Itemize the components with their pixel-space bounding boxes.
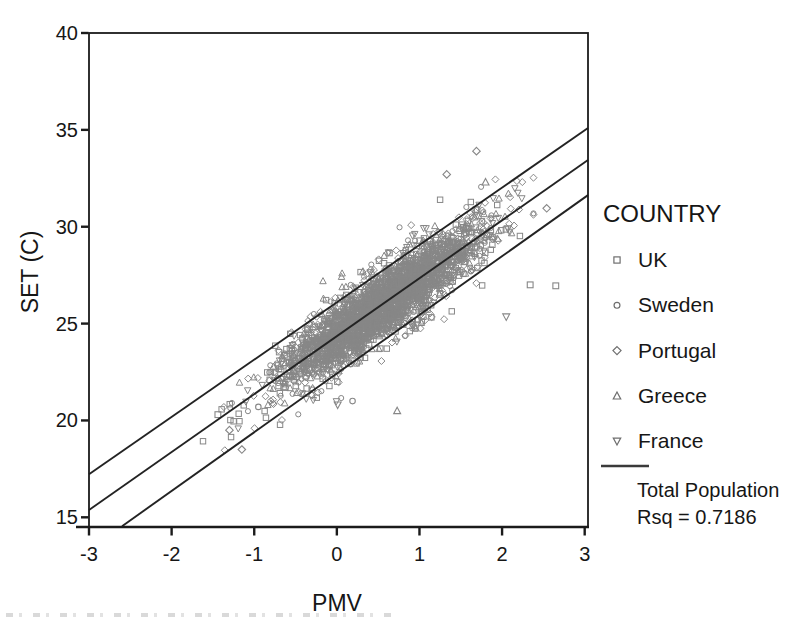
triangle-down-marker-icon <box>519 196 525 202</box>
axis-ticks: -3-2-10123152025303540 <box>56 22 591 565</box>
square-marker-icon <box>384 346 389 351</box>
y-tick-label: 35 <box>56 119 78 141</box>
diamond-marker-icon <box>492 176 499 183</box>
triangle-down-marker-icon <box>503 314 510 321</box>
circle-marker-icon <box>267 370 272 375</box>
triangle-up-marker-icon <box>394 407 401 414</box>
x-tick-label: -3 <box>80 543 98 565</box>
diamond-marker-icon <box>441 316 448 323</box>
circle-marker-icon <box>614 302 620 308</box>
diamond-marker-icon <box>408 222 415 229</box>
diamond-marker-icon <box>254 375 261 382</box>
legend-rsq-label: Rsq = 0.7186 <box>637 506 757 528</box>
upper-prediction-band-line <box>89 128 588 474</box>
y-axis-title: SET (C) <box>17 231 43 314</box>
diamond-marker-icon <box>473 280 480 287</box>
legend: COUNTRY UKSwedenPortugalGreeceFrance Tot… <box>601 200 779 528</box>
legend-item-label: France <box>638 429 703 452</box>
circle-marker-icon <box>397 225 402 230</box>
triangle-up-marker-icon <box>236 379 242 385</box>
cropped-caption-artifact <box>6 613 396 617</box>
x-tick-label: -1 <box>245 543 263 565</box>
triangle-down-marker-icon <box>512 186 518 192</box>
y-tick-label: 15 <box>56 506 78 528</box>
circle-marker-icon <box>405 238 410 243</box>
circle-marker-icon <box>350 398 356 404</box>
square-marker-icon <box>215 412 221 418</box>
scatter-cloud <box>200 147 558 453</box>
circle-marker-icon <box>459 267 464 272</box>
scatter-chart-svg: -3-2-10123152025303540 PMV SET (C) COUNT… <box>0 0 793 618</box>
triangle-up-marker-icon <box>320 278 326 284</box>
square-marker-icon <box>263 415 268 420</box>
lower-prediction-band-line <box>122 195 588 526</box>
y-tick-label: 25 <box>56 313 78 335</box>
diamond-marker-icon <box>245 375 252 382</box>
x-tick-label: -2 <box>163 543 181 565</box>
square-marker-icon <box>236 411 241 416</box>
diamond-marker-icon <box>613 347 621 355</box>
square-marker-icon <box>437 197 442 202</box>
diamond-marker-icon <box>530 174 537 181</box>
square-marker-icon <box>479 283 484 288</box>
legend-item-label: Portugal <box>638 339 716 362</box>
diamond-marker-icon <box>226 426 234 434</box>
triangle-down-marker-icon <box>235 426 241 432</box>
plot-frame <box>89 33 588 527</box>
triangle-down-marker-icon <box>613 438 620 445</box>
legend-item-label: Sweden <box>638 293 714 316</box>
square-marker-icon <box>468 199 473 204</box>
diamond-marker-icon <box>507 205 514 212</box>
x-tick-label: 0 <box>331 543 342 565</box>
diamond-marker-icon <box>393 247 400 254</box>
square-marker-icon <box>262 408 267 413</box>
diamond-marker-icon <box>543 205 551 213</box>
diamond-marker-icon <box>238 446 246 454</box>
diamond-marker-icon <box>378 358 385 365</box>
square-marker-icon <box>228 434 233 439</box>
triangle-up-marker-icon <box>432 223 438 229</box>
legend-item-label: UK <box>638 248 667 271</box>
x-tick-label: 3 <box>579 543 590 565</box>
circle-marker-icon <box>464 204 469 209</box>
legend-total-population-label: Total Population <box>637 479 779 501</box>
triangle-up-marker-icon <box>392 335 398 341</box>
square-marker-icon <box>517 233 522 238</box>
triangle-down-marker-icon <box>244 388 250 394</box>
square-marker-icon <box>614 257 620 263</box>
diamond-marker-icon <box>473 147 481 155</box>
y-tick-label: 30 <box>56 216 78 238</box>
y-tick-label: 20 <box>56 409 78 431</box>
square-marker-icon <box>495 202 500 207</box>
triangle-up-marker-icon <box>613 392 620 399</box>
x-tick-label: 2 <box>497 543 508 565</box>
triangle-up-marker-icon <box>482 179 489 186</box>
legend-items: UKSwedenPortugalGreeceFrance <box>613 248 716 452</box>
diamond-marker-icon <box>507 194 514 201</box>
legend-title: COUNTRY <box>603 200 721 227</box>
x-tick-label: 1 <box>414 543 425 565</box>
circle-marker-icon <box>296 412 301 417</box>
diamond-marker-icon <box>443 171 451 179</box>
square-marker-icon <box>200 439 205 444</box>
circle-marker-icon <box>245 409 250 414</box>
square-marker-icon <box>237 419 242 424</box>
legend-item-label: Greece <box>638 384 707 407</box>
square-marker-icon <box>449 309 454 314</box>
square-marker-icon <box>527 282 533 288</box>
square-marker-icon <box>327 383 332 388</box>
diamond-marker-icon <box>277 399 284 406</box>
circle-marker-icon <box>256 404 262 410</box>
scatter-figure: -3-2-10123152025303540 PMV SET (C) COUNT… <box>0 0 793 618</box>
y-tick-label: 40 <box>56 22 78 44</box>
diamond-marker-icon <box>262 393 269 400</box>
square-marker-icon <box>553 283 559 289</box>
total-population-fit-line <box>89 160 588 510</box>
